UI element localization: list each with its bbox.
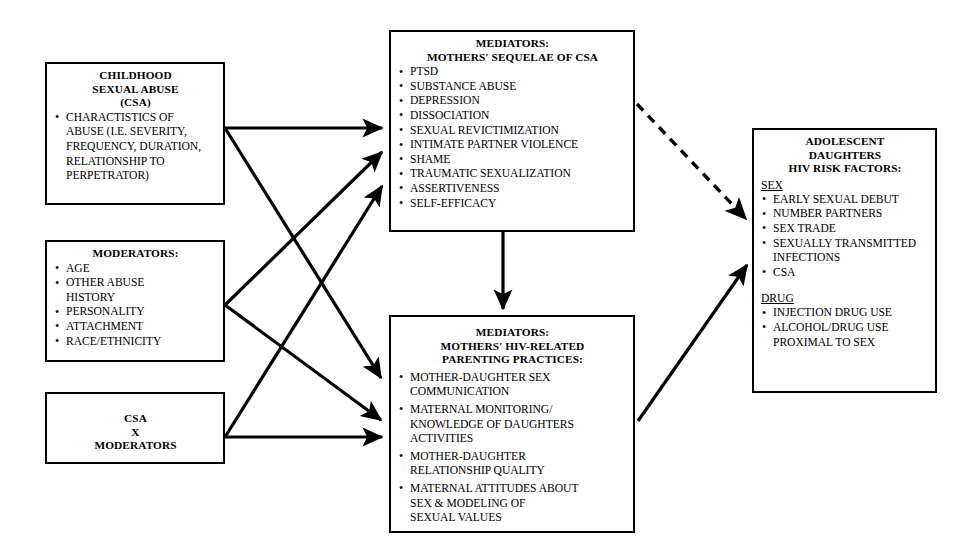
list-item: MOTHER-DAUGHTER RELATIONSHIP QUALITY [398,450,627,479]
arrow-moderators-to-sequelae [225,152,382,305]
diagram-canvas: CHILDHOOD SEXUAL ABUSE (CSA) CHARACTISTI… [0,0,975,558]
section-heading-drug: DRUG [761,291,929,306]
box-title: CHILDHOOD SEXUAL ABUSE (CSA) [54,69,217,110]
list-item: ALCOHOL/DRUG USE PROXIMAL TO SEX [761,321,929,350]
list-item: RACE/ETHNICITY [54,335,217,350]
list-item: CHARACTISTICS OF ABUSE (I.E. SEVERITY, F… [54,111,217,184]
list-item: MATERNAL ATTITUDES ABOUT SEX & MODELING … [398,482,627,526]
list-item: OTHER ABUSE HISTORY [54,276,217,305]
box-childhood-sexual-abuse: CHILDHOOD SEXUAL ABUSE (CSA) CHARACTISTI… [45,62,225,205]
box-title: MEDIATORS: MOTHERS' SEQUELAE OF CSA [398,37,627,64]
sequelae-item-list: PTSD SUBSTANCE ABUSE DEPRESSION DISSOCIA… [398,65,627,211]
box-adolescent-daughters-hiv-risk-factors: ADOLESCENT DAUGHTERS HIV RISK FACTORS: S… [752,128,937,393]
section-spacer [761,280,929,289]
arrow-sequelae-to-outcome-dashed [637,104,746,219]
list-item: AGE [54,262,217,277]
section-heading-sex: SEX [761,178,929,193]
list-item: ATTACHMENT [54,320,217,335]
box-csa-x-moderators: CSA X MODERATORS [45,392,225,464]
arrow-csa-x-moderators-to-sequelae [225,186,382,437]
csa-item-list: CHARACTISTICS OF ABUSE (I.E. SEVERITY, F… [54,111,217,184]
outcome-sex-item-list: EARLY SEXUAL DEBUT NUMBER PARTNERS SEX T… [761,193,929,281]
list-item: SUBSTANCE ABUSE [398,80,627,95]
list-item: PERSONALITY [54,305,217,320]
list-item: MOTHER-DAUGHTER SEX COMMUNICATION [398,371,627,400]
list-item: CSA [761,266,929,281]
box-title: CSA X MODERATORS [54,412,217,453]
list-item: PTSD [398,65,627,80]
arrow-csa-to-parenting [225,128,381,378]
box-title: MEDIATORS: MOTHERS' HIV-RELATED PARENTIN… [398,326,627,367]
arrow-parenting-to-outcome [638,265,747,421]
list-item: ASSERTIVENESS [398,182,627,197]
list-item: TRAUMATIC SEXUALIZATION [398,167,627,182]
list-item: INJECTION DRUG USE [761,306,929,321]
box-title: ADOLESCENT DAUGHTERS HIV RISK FACTORS: [761,135,929,176]
list-item: SHAME [398,153,627,168]
moderators-item-list: AGE OTHER ABUSE HISTORY PERSONALITY ATTA… [54,262,217,350]
list-item: SEXUAL REVICTIMIZATION [398,124,627,139]
parenting-item-list: MOTHER-DAUGHTER SEX COMMUNICATION MATERN… [398,371,627,526]
outcome-drug-item-list: INJECTION DRUG USE ALCOHOL/DRUG USE PROX… [761,306,929,350]
box-moderators: MODERATORS: AGE OTHER ABUSE HISTORY PERS… [45,240,225,362]
list-item: SEXUALLY TRANSMITTED INFECTIONS [761,237,929,266]
list-item: NUMBER PARTNERS [761,207,929,222]
box-mediators-sequelae: MEDIATORS: MOTHERS' SEQUELAE OF CSA PTSD… [389,30,635,232]
list-item: EARLY SEXUAL DEBUT [761,193,929,208]
list-item: SELF-EFFICACY [398,197,627,212]
list-item: MATERNAL MONITORING/ KNOWLEDGE OF DAUGHT… [398,403,627,447]
list-item: DEPRESSION [398,94,627,109]
list-item: SEX TRADE [761,222,929,237]
list-item: INTIMATE PARTNER VIOLENCE [398,138,627,153]
arrow-moderators-to-parenting [225,305,381,420]
box-title: MODERATORS: [54,247,217,261]
list-item: DISSOCIATION [398,109,627,124]
box-mediators-parenting-practices: MEDIATORS: MOTHERS' HIV-RELATED PARENTIN… [389,315,635,533]
